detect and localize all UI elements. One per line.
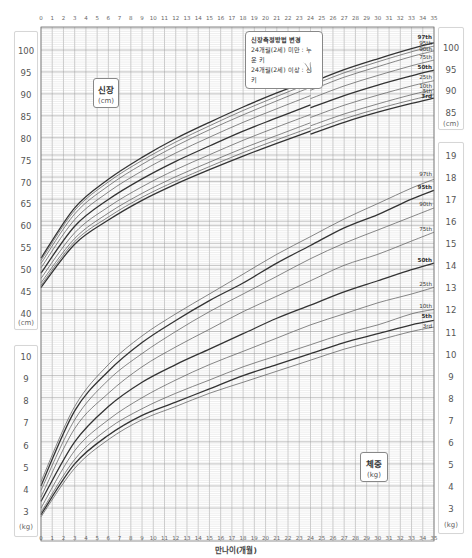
right-weight-tick: 8 (439, 394, 463, 404)
right-height-tick: 100 (439, 43, 463, 53)
right-weight-tick: 18 (439, 173, 463, 183)
x-tick: 27 (341, 15, 348, 21)
right-weight-tick: 6 (439, 438, 463, 448)
x-tick: 28 (352, 15, 359, 21)
x-tick: 0 (39, 535, 43, 541)
x-tick: 30 (374, 535, 381, 541)
left-height-tick: 95 (15, 68, 37, 78)
x-tick: 19 (251, 535, 258, 541)
x-tick: 18 (240, 15, 247, 21)
percentile-label-5th: 5th (421, 313, 432, 319)
x-tick: 13 (183, 535, 190, 541)
x-tick: 33 (408, 15, 415, 21)
x-tick: 6 (107, 15, 111, 21)
x-tick: 23 (296, 15, 303, 21)
x-tick: 32 (397, 535, 404, 541)
percentile-label-3rd: 3rd (423, 323, 433, 329)
left-weight-tick: 4 (15, 485, 37, 495)
x-tick: 11 (161, 535, 168, 541)
right-height-axis: 100959085 (cm) (438, 27, 464, 130)
right-weight-tick: 11 (439, 328, 463, 338)
x-tick: 15 (206, 15, 213, 21)
right-weight-axis: 191817161514131211109876543 (kg) (438, 142, 464, 534)
right-weight-tick: 4 (439, 482, 463, 492)
x-tick: 28 (352, 535, 359, 541)
percentile-label-3rd: 3rd (421, 93, 432, 99)
x-tick: 34 (419, 15, 426, 21)
callout-pointer (300, 62, 312, 74)
right-weight-tick: 5 (439, 460, 463, 470)
x-tick: 16 (217, 15, 224, 21)
x-tick: 26 (329, 535, 336, 541)
x-tick: 22 (285, 15, 292, 21)
percentile-label-25th: 25th (419, 281, 432, 287)
right-weight-tick: 7 (439, 416, 463, 426)
left-height-tick: 55 (15, 243, 37, 253)
x-tick: 1 (50, 15, 54, 21)
x-tick: 12 (172, 535, 179, 541)
right-height-unit: (cm) (439, 120, 463, 128)
left-weight-tick: 3 (15, 507, 37, 517)
x-tick: 17 (228, 535, 235, 541)
percentile-label-75th: 75th (419, 54, 432, 60)
left-weight-tick: 6 (15, 441, 37, 451)
x-tick: 14 (195, 535, 202, 541)
percentile-label-10th: 10th (419, 303, 432, 309)
x-tick: 10 (150, 15, 157, 21)
right-height-tick: 95 (439, 65, 463, 75)
x-tick: 35 (431, 15, 438, 21)
x-tick: 23 (296, 535, 303, 541)
height-curve-95th (310, 46, 434, 86)
x-tick: 26 (329, 15, 336, 21)
x-tick: 5 (95, 15, 99, 21)
height-curve-5th (310, 95, 434, 131)
x-tick: 11 (161, 15, 168, 21)
left-height-axis: 100959085807570656055504540 (cm) (14, 31, 38, 330)
weight-title: 체중 (361, 457, 387, 469)
percentile-label-90th: 90th (419, 201, 432, 207)
x-tick: 18 (240, 535, 247, 541)
x-tick: 16 (217, 535, 224, 541)
x-tick: 35 (431, 535, 438, 541)
weight-title-box: 체중 (kg) (360, 452, 388, 482)
x-tick: 4 (84, 15, 88, 21)
x-tick: 15 (206, 535, 213, 541)
x-tick: 7 (118, 15, 122, 21)
x-tick: 19 (251, 15, 258, 21)
x-tick: 13 (183, 15, 190, 21)
x-tick: 24 (307, 535, 314, 541)
x-tick: 14 (195, 15, 202, 21)
x-tick: 2 (62, 15, 66, 21)
left-height-tick: 40 (15, 309, 37, 319)
x-tick: 1 (50, 535, 54, 541)
left-height-tick: 65 (15, 199, 37, 209)
left-height-tick: 80 (15, 134, 37, 144)
x-tick: 6 (107, 535, 111, 541)
percentile-label-97th: 97th (419, 171, 432, 177)
x-tick: 3 (73, 535, 77, 541)
measurement-change-callout: 신장측정방법 변경 24개월(2세) 미만 : 누운 키 24개월(2세) 이상… (245, 31, 323, 89)
left-weight-tick: 10 (15, 352, 37, 362)
callout-title: 신장측정방법 변경 (251, 35, 317, 45)
x-tick: 7 (118, 535, 122, 541)
x-tick: 12 (172, 15, 179, 21)
weight-unit: (kg) (361, 471, 387, 479)
x-tick: 29 (363, 15, 370, 21)
x-tick: 8 (129, 535, 133, 541)
x-tick: 22 (285, 535, 292, 541)
percentile-label-50th: 50th (418, 64, 432, 70)
right-weight-unit: (kg) (439, 521, 463, 529)
weight-curve-5th (41, 320, 434, 514)
x-tick: 25 (318, 535, 325, 541)
x-tick: 33 (408, 535, 415, 541)
percentile-label-25th: 25th (419, 74, 432, 80)
x-tick: 8 (129, 15, 133, 21)
left-weight-tick: 9 (15, 374, 37, 384)
x-tick: 29 (363, 535, 370, 541)
left-height-tick: 100 (15, 46, 37, 56)
left-height-tick: 50 (15, 265, 37, 275)
right-weight-tick: 3 (439, 504, 463, 514)
x-tick: 25 (318, 15, 325, 21)
right-weight-tick: 13 (439, 283, 463, 293)
percentile-label-75th: 75th (419, 226, 432, 232)
